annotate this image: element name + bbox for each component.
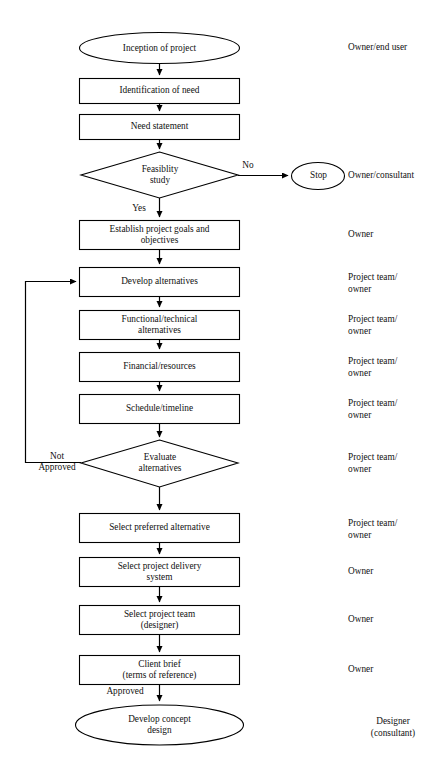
role-label-stop: Owner/consultant (348, 170, 445, 182)
role-label-evaluate: Project team/ owner (348, 452, 443, 475)
role-label-team: Owner (348, 614, 443, 626)
node-label-team: Select project team (designer) (80, 606, 239, 634)
node-label-brief: Client brief (terms of reference) (80, 656, 239, 684)
node-label-identify: Identification of need (80, 79, 239, 103)
edge-label-no: No (237, 160, 259, 171)
node-label-delivery: Select project delivery system (80, 558, 239, 586)
role-label-inception: Owner/end user (348, 42, 443, 54)
role-label-concept: Designer (consultant) (343, 716, 443, 739)
role-label-financial: Project team/ owner (348, 356, 443, 379)
role-label-functional: Project team/ owner (348, 314, 443, 337)
node-label-goals: Establish project goals and objectives (80, 221, 239, 249)
node-label-schedule: Schedule/timeline (80, 395, 239, 423)
flowchart-diagram: Inception of project Identification of n… (0, 0, 445, 761)
node-label-financial: Financial/resources (80, 353, 239, 381)
role-label-preferred: Project team/ owner (348, 518, 443, 541)
edge-label-not-approved: Not Approved (26, 451, 88, 473)
node-label-preferred: Select preferred alternative (80, 514, 239, 542)
node-label-functional: Functional/technical alternatives (80, 311, 239, 339)
role-label-brief: Owner (348, 664, 443, 676)
role-label-delivery: Owner (348, 566, 443, 578)
edge-evaluate-develop-feedback (26, 282, 82, 463)
edge-label-yes: Yes (126, 203, 152, 214)
role-label-goals: Owner (348, 229, 443, 241)
role-label-develop: Project team/ owner (348, 272, 443, 295)
node-label-need: Need statement (80, 115, 239, 139)
node-label-develop: Develop alternatives (80, 268, 239, 296)
node-label-inception: Inception of project (80, 40, 239, 57)
node-label-evaluate: Evaluate alternatives (105, 451, 215, 475)
edge-label-approved: Approved (97, 686, 153, 697)
node-label-feasibility: Feasiblity study (105, 163, 215, 187)
node-label-concept: Develop concept design (80, 712, 239, 738)
role-label-schedule: Project team/ owner (348, 398, 443, 421)
node-label-stop: Stop (292, 168, 345, 184)
